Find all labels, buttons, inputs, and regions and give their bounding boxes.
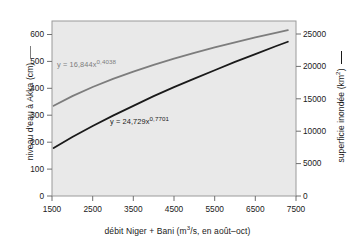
x-axis-title-post: /s, en août–oct)	[190, 226, 250, 236]
right-axis-title-superscript: 2	[334, 71, 341, 75]
equation-base: y = 16,844x	[57, 60, 97, 69]
right-ytick-label: 25000	[303, 29, 337, 39]
xtick-label: 5500	[198, 204, 232, 214]
right-ytick-label: 20000	[303, 61, 337, 71]
right-ytick-label: 10000	[303, 126, 337, 136]
x-axis-title: débit Niger + Bani (m3/s, en août–oct)	[0, 226, 355, 236]
plot-area	[52, 21, 296, 196]
right-ytick-label: 5000	[303, 158, 337, 168]
equation-base: y = 24,729x	[110, 117, 150, 126]
xtick-label: 7500	[279, 204, 313, 214]
left-axis-title-group: niveau d'eau à Akka (cm)	[23, 27, 37, 179]
xtick-label: 3500	[116, 204, 150, 214]
series-equation-superficie-inondee: y = 24,729x0,7701	[110, 117, 169, 126]
right-axis-title-pre: superficie inondée (km	[336, 75, 346, 163]
right-ytick-label: 15000	[303, 94, 337, 104]
chart-figure: y = 16,844x0,4038 y = 24,729x0,7701 0 10…	[0, 0, 355, 248]
xtick-label: 4500	[157, 204, 191, 214]
x-axis-title-pre: débit Niger + Bani (m	[105, 226, 187, 236]
left-axis-series-key-line	[30, 46, 31, 59]
right-axis-title-group: superficie inondée (km2)	[334, 31, 348, 183]
right-axis-series-key-line	[341, 51, 342, 64]
right-ytick-label: 0	[303, 191, 337, 201]
equation-exponent: 0,7701	[150, 115, 170, 122]
xtick-label: 2500	[76, 204, 110, 214]
series-equation-niveau-deau: y = 16,844x0,4038	[57, 60, 116, 69]
right-axis-title: superficie inondée (km2)	[336, 68, 346, 162]
left-axis-ticks	[47, 35, 52, 197]
xtick-label: 1500	[35, 204, 69, 214]
left-axis-title: niveau d'eau à Akka (cm)	[25, 63, 35, 161]
left-ytick-label: 0	[18, 191, 44, 201]
right-axis-ticks	[296, 34, 301, 196]
equation-exponent: 0,4038	[97, 58, 117, 65]
xtick-label: 6500	[238, 204, 272, 214]
right-axis-title-post: )	[336, 68, 346, 71]
x-axis-ticks	[52, 196, 296, 201]
